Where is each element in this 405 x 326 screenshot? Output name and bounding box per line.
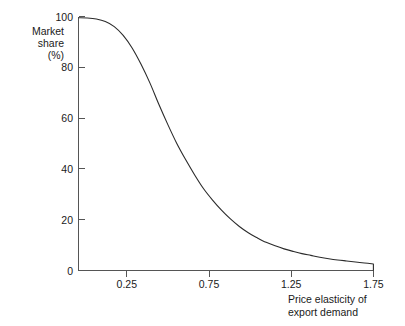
y-tick-label-20: 20 (61, 214, 73, 226)
x-axis-title-line-2: export demand (288, 306, 358, 318)
y-tick-label-60: 60 (61, 112, 73, 124)
x-tick-label-1-25: 1.25 (281, 278, 302, 290)
y-tick-label-80: 80 (61, 61, 73, 73)
y-axis-title-line-3: (%) (48, 49, 64, 61)
y-tick-label-40: 40 (61, 163, 73, 175)
y-axis-title-line-2: share (38, 37, 64, 49)
x-tick-label-0-25: 0.25 (117, 278, 138, 290)
y-tick-label-0: 0 (67, 265, 73, 277)
market-share-elasticity-chart: 100 80 60 40 20 0 0.25 0.75 1.25 1.75 Ma… (0, 0, 405, 326)
x-axis-title-line-1: Price elasticity of (288, 293, 367, 305)
x-tick-label-1-75: 1.75 (363, 278, 384, 290)
x-axis-title: Price elasticity of export demand (288, 293, 367, 318)
x-tick-label-0-75: 0.75 (199, 278, 220, 290)
y-axis-title-line-1: Market (32, 25, 64, 37)
y-tick-label-100: 100 (55, 11, 73, 23)
